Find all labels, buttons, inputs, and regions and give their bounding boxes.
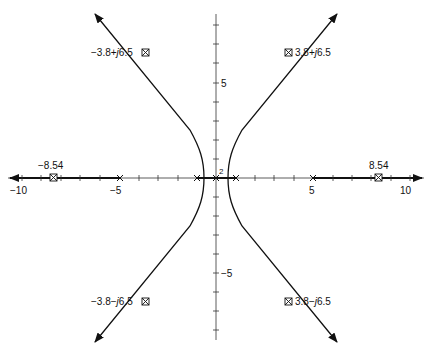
y-tick-neg5: −5 xyxy=(221,268,233,279)
zero-label-lower-right: 3.8−j6.5 xyxy=(295,296,331,307)
zero-label-lower-left: −3.8−j6.5 xyxy=(91,296,133,307)
zero-marker xyxy=(285,49,292,56)
x-tick-10: 10 xyxy=(400,185,412,196)
x-tick-5: 5 xyxy=(309,185,315,196)
root-locus-plot: −10 −5 5 10 5 −5 2 −8.54 8.54 −3.8+j6.5 … xyxy=(0,0,430,354)
zero-marker xyxy=(142,49,149,56)
zero-label-upper-left: −3.8+j6.5 xyxy=(91,47,133,58)
zero-marker xyxy=(375,174,382,181)
zero-marker xyxy=(50,174,57,181)
x-tick-neg10: −10 xyxy=(10,185,27,196)
double-pole-label: 2 xyxy=(219,167,224,176)
y-tick-5: 5 xyxy=(221,78,227,89)
zero-marker xyxy=(285,298,292,305)
zero-marker xyxy=(142,298,149,305)
zero-label-neg854: −8.54 xyxy=(38,160,64,171)
zero-label-upper-right: 3.8+j6.5 xyxy=(295,47,331,58)
zero-label-854: 8.54 xyxy=(369,160,389,171)
x-tick-neg5: −5 xyxy=(110,185,122,196)
